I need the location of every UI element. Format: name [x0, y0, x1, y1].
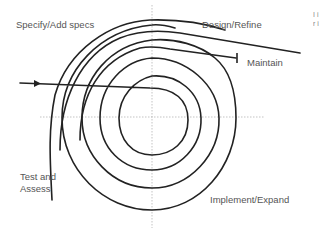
maintain-label: Maintain	[247, 57, 283, 69]
specify-label: Specify/Add specs	[16, 19, 94, 31]
implement-label: Implement/Expand	[210, 194, 289, 206]
outer-arc	[50, 20, 225, 200]
test-label-line2: Assess	[20, 183, 51, 195]
design-refine-line	[60, 31, 300, 150]
design-refine-label: Design/Refine	[202, 19, 262, 31]
test-label-line1: Test and	[20, 171, 56, 183]
cropped-edge-text: I i r i	[313, 10, 319, 28]
entry-arrowhead-icon	[34, 80, 41, 87]
